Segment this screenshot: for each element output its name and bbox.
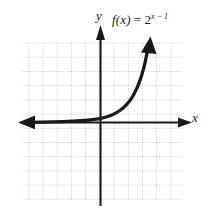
equals-sign: = <box>134 12 142 27</box>
function-equation-label: f(x)=2x − 1 <box>112 12 168 28</box>
y-axis-label: y <box>96 8 102 24</box>
x-axis-label: x <box>192 110 198 126</box>
figure-canvas: y x f(x)=2x − 1 <box>0 0 208 208</box>
function-lhs: f(x) <box>112 12 131 27</box>
exponent-value: x − 1 <box>151 12 168 21</box>
graph-svg <box>0 0 208 208</box>
